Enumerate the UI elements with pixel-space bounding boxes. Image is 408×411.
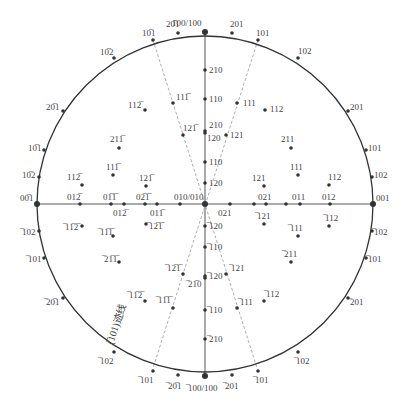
- pole-dot: [289, 260, 293, 264]
- pole-label: ̅111: [237, 297, 253, 307]
- pole-label: 20̅1: [46, 102, 60, 112]
- pole-label: 201: [350, 102, 364, 112]
- pole-label: ̅11̅2̅: [126, 290, 145, 300]
- pole-label: ̅12̅1̅: [164, 263, 184, 273]
- pole-label: 121: [230, 130, 244, 140]
- pole-dot: [203, 68, 207, 72]
- pole-label: ̅211: [281, 249, 297, 259]
- pole-dot: [327, 224, 331, 228]
- pole-label: 111: [243, 98, 256, 108]
- pole-label: 012: [322, 192, 336, 202]
- pole-dot: [37, 229, 41, 233]
- pole-label: 102: [374, 170, 388, 180]
- pole-dot: [109, 202, 113, 206]
- pole-label: ̅21̅0: [185, 279, 202, 289]
- pole-label: 101: [256, 28, 270, 38]
- pole-dot: [284, 202, 288, 206]
- pole-dot: [203, 97, 207, 101]
- pole-label: ̅20̅1: [43, 297, 60, 307]
- pole-dot: [203, 308, 207, 312]
- pole-dot: [203, 276, 207, 280]
- pole-dot: [228, 202, 232, 206]
- pole-label: 021: [258, 192, 272, 202]
- pole-label: 012̅: [113, 208, 130, 218]
- pole-label: ̅112: [263, 289, 279, 299]
- pole-dot: [202, 373, 208, 379]
- pole-dot: [203, 181, 207, 185]
- pole-dot: [178, 202, 182, 206]
- pole-label: ̅201: [222, 381, 239, 391]
- pole-dot: [34, 201, 40, 207]
- pole-dot: [117, 146, 121, 150]
- pole-label: ̅20̅1: [165, 381, 182, 391]
- pole-label: 20̅1: [166, 19, 180, 29]
- pole-dot: [151, 369, 155, 373]
- pole-dot: [298, 202, 302, 206]
- pole-label: ̅210: [206, 334, 223, 344]
- pole-dot: [151, 38, 155, 42]
- pole-label: ̅110: [206, 242, 223, 252]
- pole-dot: [230, 31, 234, 35]
- pole-dot: [61, 109, 65, 113]
- pole-dot: [296, 173, 300, 177]
- pole-label: ̅101: [252, 375, 269, 385]
- pole-label: ̅120: [206, 271, 223, 281]
- pole-label: 10̅2: [22, 170, 36, 180]
- pole-label: 001: [376, 193, 390, 203]
- pole-dot: [263, 108, 267, 112]
- pole-label: 112̅: [67, 172, 83, 182]
- pole-dot: [155, 202, 159, 206]
- pole-label: ̅11̅1̅: [155, 295, 174, 305]
- pole-label: ̅12̅1̅: [146, 221, 166, 231]
- pole-dot: [289, 146, 293, 150]
- pole-label: 10̅1: [142, 28, 156, 38]
- pole-dot: [176, 31, 180, 35]
- pole-label: 112̅: [128, 100, 144, 110]
- pole-dot: [327, 183, 331, 187]
- pole-label: 211: [281, 134, 294, 144]
- pole-label: 121̅: [183, 123, 200, 133]
- pole-label: ̅101: [25, 254, 42, 264]
- pole-label: 121̅: [139, 173, 156, 183]
- pole-label: 201: [230, 19, 244, 29]
- pole-label: ̅121: [254, 211, 271, 221]
- pole-dot: [80, 183, 84, 187]
- pole-label: 121: [252, 173, 266, 183]
- pole-dot: [37, 175, 41, 179]
- pole-dot: [235, 306, 239, 310]
- pole-dot: [42, 256, 46, 260]
- pole-dot: [171, 306, 175, 310]
- pole-label: ̅101: [137, 375, 154, 385]
- pole-label: 011: [292, 192, 305, 202]
- pole-label: 110: [209, 94, 223, 104]
- pole-label: ̅201: [347, 297, 364, 307]
- pole-dot: [171, 101, 175, 105]
- pole-label: 102: [298, 46, 312, 56]
- pole-dot: [112, 350, 116, 354]
- pole-dot: [61, 296, 65, 300]
- pole-dot: [143, 202, 147, 206]
- pole-label: 111̅: [176, 92, 192, 102]
- pole-dot: [296, 350, 300, 354]
- pole-dot: [224, 133, 228, 137]
- pole-dot: [117, 260, 121, 264]
- pole-label: ̅110: [206, 305, 223, 315]
- pole-label: 02̅1̅: [136, 192, 153, 202]
- pole-label: ̅100/100: [185, 383, 218, 393]
- pole-dot: [256, 38, 260, 42]
- pole-dot: [235, 101, 239, 105]
- pole-dot: [122, 202, 126, 206]
- pole-label: 01̅1̅: [103, 192, 119, 202]
- pole-label: 10̅1: [28, 143, 42, 153]
- pole-label: 012̅: [67, 192, 84, 202]
- pole-dot: [111, 173, 115, 177]
- pole-dot: [144, 222, 148, 226]
- pole-label: ̅121: [228, 263, 245, 273]
- pole-label: 120: [209, 178, 223, 188]
- pole-label: 021: [218, 208, 232, 218]
- pole-dot: [78, 202, 82, 206]
- pole-label: ̅102: [371, 227, 388, 237]
- pole-label: 210: [209, 65, 223, 75]
- pole-dot: [181, 133, 185, 137]
- pole-dot: [203, 337, 207, 341]
